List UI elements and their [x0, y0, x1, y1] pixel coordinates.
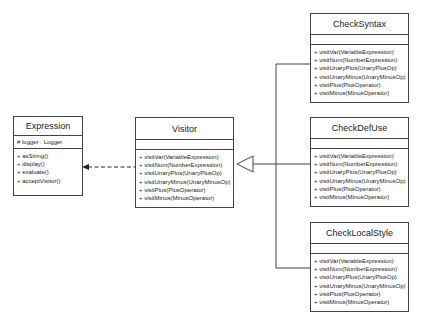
class-attributes: # logger : Logger	[14, 136, 82, 149]
operation: + visitUnaryPlus(UnaryPlusOp)	[314, 64, 405, 72]
class-operations: + visitVar(VariableExpression) + visitNu…	[136, 150, 233, 205]
operation: + evaluate()	[17, 168, 79, 176]
class-name: CheckSyntax	[311, 14, 408, 35]
class-name: CheckDefUse	[311, 118, 408, 139]
operation: + visitUnaryMinus(UnaryMinusOp)	[139, 178, 230, 186]
class-operations: + visitVar(VariableExpression) + visitNu…	[311, 45, 408, 100]
operation: + visitMinus(MinusOperator)	[139, 194, 230, 202]
class-attributes	[136, 140, 233, 150]
operation: + display()	[17, 160, 79, 168]
operation: + visitVar(VariableExpression)	[139, 153, 230, 161]
operation: + visitUnaryPlus(UnaryPlusOp)	[139, 169, 230, 177]
class-name: Expression	[14, 117, 82, 136]
operation: + visitUnaryMinus(UnaryMinusOp)	[314, 177, 405, 185]
operation: + asString()	[17, 152, 79, 160]
class-attributes	[311, 35, 408, 45]
class-expression[interactable]: Expression # logger : Logger + asString(…	[13, 116, 83, 196]
operation: + visitPlus(PlusOperator)	[314, 81, 405, 89]
operation: + visitVar(VariableExpression)	[314, 152, 405, 160]
operation: + visitNum(NumberExpression)	[139, 161, 230, 169]
class-operations: + visitVar(VariableExpression) + visitNu…	[311, 149, 408, 204]
generalization-arrow	[237, 64, 310, 268]
operation: + visitNum(NumberExpression)	[314, 56, 405, 64]
operation: + visitUnaryPlus(UnaryPlusOp)	[314, 168, 405, 176]
operation: + visitVar(VariableExpression)	[314, 48, 405, 56]
operation: + visitMinus(MinusOperator)	[314, 89, 405, 97]
class-operations: + visitVar(VariableExpression) + visitNu…	[311, 254, 408, 309]
class-check-syntax[interactable]: CheckSyntax + visitVar(VariableExpressio…	[310, 13, 409, 103]
class-attributes	[311, 244, 408, 254]
operation: + visitMinus(MinusOperator)	[314, 193, 405, 201]
operation: + acceptVisitor()	[17, 177, 79, 185]
class-check-def-use[interactable]: CheckDefUse + visitVar(VariableExpressio…	[310, 117, 409, 207]
operation: + visitPlus(PlusOperator)	[314, 185, 405, 193]
operation: + visitMinus(MinusOperator)	[314, 298, 405, 306]
operation: + visitPlus(PlusOperator)	[139, 186, 230, 194]
operation: + visitUnaryPlus(UnaryPlusOp)	[314, 273, 405, 281]
class-visitor[interactable]: Visitor + visitVar(VariableExpression) +…	[135, 117, 234, 208]
class-operations: + asString() + display() + evaluate() + …	[14, 149, 82, 188]
class-check-local-style[interactable]: CheckLocalStyle + visitVar(VariableExpre…	[310, 222, 409, 312]
operation: + visitUnaryMinus(UnaryMinusOp)	[314, 73, 405, 81]
class-name: CheckLocalStyle	[311, 223, 408, 244]
operation: + visitPlus(PlusOperator)	[314, 290, 405, 298]
operation: + visitNum(NumberExpression)	[314, 160, 405, 168]
attribute: # logger : Logger	[17, 138, 79, 146]
class-name: Visitor	[136, 118, 233, 140]
dependency-arrow	[82, 164, 135, 170]
operation: + visitUnaryMinus(UnaryMinusOp)	[314, 282, 405, 290]
class-attributes	[311, 139, 408, 149]
operation: + visitNum(NumberExpression)	[314, 265, 405, 273]
operation: + visitVar(VariableExpression)	[314, 257, 405, 265]
